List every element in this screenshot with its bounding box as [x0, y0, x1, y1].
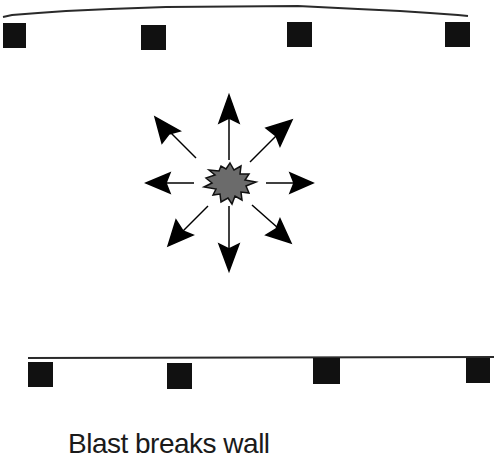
top-wall-line: [3, 6, 468, 17]
blast-diagram: [0, 0, 494, 476]
bottom-wall-line: [28, 357, 494, 358]
explosion-icon: [204, 163, 256, 204]
arrow-down-left-icon: [168, 206, 208, 246]
arrow-down-icon: [219, 206, 239, 271]
arrow-up-icon: [219, 95, 239, 160]
top-wall-block-2: [141, 25, 166, 50]
bottom-wall-block-4: [466, 358, 490, 383]
top-wall-block-3: [287, 22, 312, 47]
bottom-wall-block-2: [167, 363, 192, 389]
arrow-right-icon: [266, 173, 313, 193]
top-wall-block-4: [445, 22, 470, 47]
diagram-caption: Blast breaks wall: [68, 428, 270, 460]
bottom-wall-block-3: [313, 358, 340, 384]
arrow-up-left-icon: [155, 117, 196, 158]
arrow-down-right-icon: [252, 205, 291, 243]
bottom-wall-block-1: [28, 362, 53, 387]
top-wall-block-1: [3, 23, 26, 48]
arrow-up-right-icon: [250, 120, 292, 162]
arrow-left-icon: [146, 173, 194, 193]
